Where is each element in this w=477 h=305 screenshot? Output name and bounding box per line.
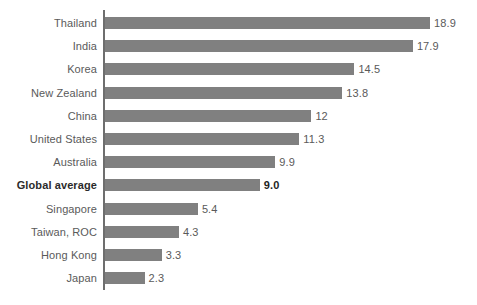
category-label: India xyxy=(0,35,97,58)
bar xyxy=(105,63,354,75)
bar-value-label: 17.9 xyxy=(417,35,439,58)
bar-row: China12 xyxy=(0,105,477,128)
category-label: Thailand xyxy=(0,12,97,35)
bar-row: Japan2.3 xyxy=(0,267,477,290)
category-label: Singapore xyxy=(0,198,97,221)
bar-value-label: 12 xyxy=(315,105,327,128)
bar-row: Australia9.9 xyxy=(0,151,477,174)
bar-row: Hong Kong3.3 xyxy=(0,244,477,267)
bar-row: Taiwan, ROC4.3 xyxy=(0,221,477,244)
category-label: Australia xyxy=(0,151,97,174)
category-label: China xyxy=(0,105,97,128)
bar-row: New Zealand13.8 xyxy=(0,82,477,105)
category-label: Global average xyxy=(0,174,97,197)
category-label: Korea xyxy=(0,58,97,81)
bar-row: Korea14.5 xyxy=(0,58,477,81)
bar-value-label: 4.3 xyxy=(183,221,199,244)
bar-value-label: 3.3 xyxy=(166,244,182,267)
bar xyxy=(105,272,145,284)
bar xyxy=(105,17,430,29)
bar xyxy=(105,156,275,168)
bar-value-label: 9.0 xyxy=(264,174,280,197)
bar-value-label: 13.8 xyxy=(346,82,368,105)
category-label: New Zealand xyxy=(0,82,97,105)
bar xyxy=(105,203,198,215)
bar-rows: Thailand18.9India17.9Korea14.5New Zealan… xyxy=(0,12,477,290)
bar-value-label: 11.3 xyxy=(303,128,324,151)
bar xyxy=(105,249,162,261)
bar-row: Global average9.0 xyxy=(0,174,477,197)
bar xyxy=(105,40,413,52)
bar xyxy=(105,226,179,238)
bar-row: Thailand18.9 xyxy=(0,12,477,35)
category-label: Taiwan, ROC xyxy=(0,221,97,244)
bar xyxy=(105,179,260,191)
bar-row: Singapore5.4 xyxy=(0,198,477,221)
bar-row: India17.9 xyxy=(0,35,477,58)
bar-value-label: 9.9 xyxy=(279,151,295,174)
bar-value-label: 2.3 xyxy=(149,267,165,290)
bar xyxy=(105,110,311,122)
category-label: Hong Kong xyxy=(0,244,97,267)
bar-chart: Thailand18.9India17.9Korea14.5New Zealan… xyxy=(0,0,477,305)
bar-value-label: 5.4 xyxy=(202,198,218,221)
bar xyxy=(105,133,299,145)
bar-row: United States11.3 xyxy=(0,128,477,151)
category-label: United States xyxy=(0,128,97,151)
bar-value-label: 14.5 xyxy=(358,58,380,81)
bar xyxy=(105,87,342,99)
bar-value-label: 18.9 xyxy=(434,12,456,35)
category-label: Japan xyxy=(0,267,97,290)
